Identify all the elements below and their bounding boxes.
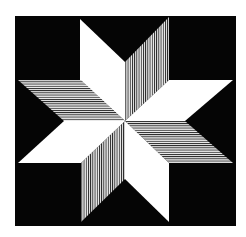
star-artwork <box>0 0 246 237</box>
artwork-canvas: Eight-pointed star <box>0 0 246 237</box>
